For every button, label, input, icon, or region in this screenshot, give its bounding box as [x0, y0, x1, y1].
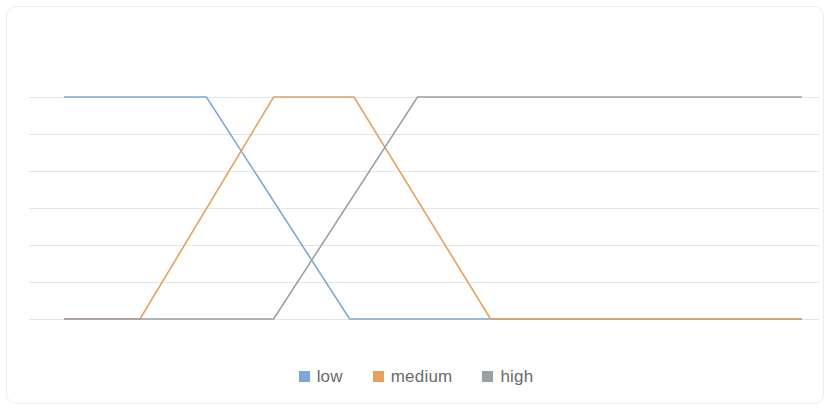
- chart-frame: low medium high: [6, 6, 824, 404]
- legend-item-label: high: [500, 368, 533, 385]
- legend-swatch-icon: [482, 371, 493, 382]
- legend-item-high[interactable]: high: [482, 368, 533, 385]
- gridlines: [29, 97, 819, 319]
- legend-item-low[interactable]: low: [299, 368, 343, 385]
- legend-item-label: low: [317, 368, 343, 385]
- chart-legend: low medium high: [7, 359, 824, 393]
- legend-swatch-icon: [299, 371, 310, 382]
- legend-item-medium[interactable]: medium: [373, 368, 453, 385]
- legend-item-label: medium: [391, 368, 453, 385]
- plot-area: [7, 7, 824, 347]
- legend-swatch-icon: [373, 371, 384, 382]
- membership-function-chart: [7, 7, 824, 347]
